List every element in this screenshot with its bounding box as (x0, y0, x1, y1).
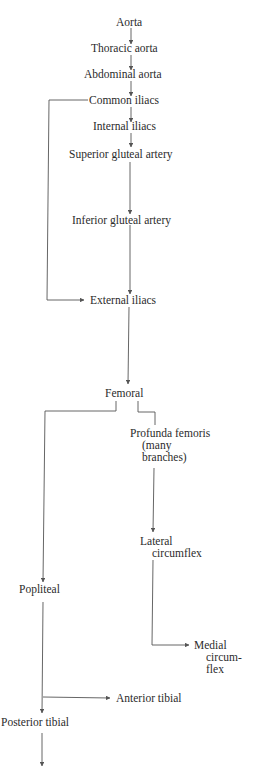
node-thoracic-aorta: Thoracic aorta (91, 42, 158, 54)
node-popliteal: Popliteal (19, 583, 60, 595)
medial-line-2: circum- (194, 651, 242, 663)
edge-popliteal-posterior (42, 602, 43, 713)
edge-femoral-profunda (138, 401, 155, 425)
node-superior-gluteal-artery: Superior gluteal artery (69, 148, 172, 160)
node-medial-circumflex: Medial circum- flex (194, 639, 242, 675)
node-lateral-circumflex: Lateral circumflex (140, 535, 202, 559)
profunda-line-3: branches) (130, 451, 210, 463)
node-abdominal-aorta: Abdominal aorta (84, 68, 162, 80)
edge-common-external-bypass (47, 100, 88, 300)
node-posterior-tibial: Posterior tibial (1, 716, 69, 728)
node-profunda-femoris: Profunda femoris (many branches) (130, 427, 210, 463)
lateral-line-1: Lateral (140, 535, 173, 547)
node-internal-iliacs: Internal iliacs (93, 120, 156, 132)
node-inferior-gluteal-artery: Inferior gluteal artery (72, 214, 171, 226)
node-external-iliacs: External iliacs (90, 294, 156, 306)
edge-lateral-medial (152, 560, 189, 645)
medial-line-1: Medial (194, 639, 227, 651)
node-aorta: Aorta (116, 16, 142, 28)
edge-popliteal-anterior (43, 697, 110, 698)
medial-line-3: flex (194, 663, 242, 675)
node-femoral: Femoral (105, 387, 143, 399)
lateral-line-2: circumflex (140, 547, 202, 559)
edge-profunda-lateral (153, 468, 154, 532)
edge-external-femoral (128, 307, 129, 384)
node-anterior-tibial: Anterior tibial (116, 692, 181, 704)
edge-femoral-popliteal (43, 401, 116, 582)
artery-flow-diagram: Aorta Thoracic aorta Abdominal aorta Com… (0, 0, 256, 769)
profunda-line-1: Profunda femoris (130, 427, 210, 439)
node-common-iliacs: Common iliacs (89, 94, 159, 106)
profunda-line-2: (many (130, 439, 210, 451)
